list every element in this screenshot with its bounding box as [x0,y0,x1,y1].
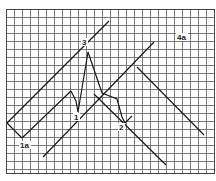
label-1a: 1a [20,141,29,150]
label-1: 1 [74,113,79,122]
label-3: 3 [82,38,87,47]
parallel-support-line [43,42,154,157]
descending-line-upper [137,67,204,135]
label-4a: 4a [177,33,186,42]
wave-path [71,52,132,123]
wave-diagram: 1a1324a [0,0,216,181]
label-2: 2 [119,123,124,132]
wave-labels: 1a1324a [19,33,188,150]
